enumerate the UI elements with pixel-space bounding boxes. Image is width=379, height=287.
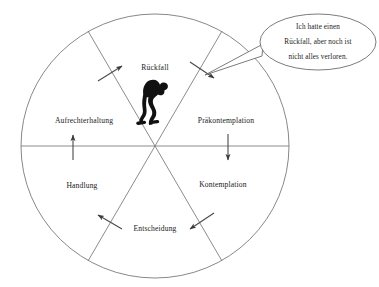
arrow-lower-left [98, 215, 122, 229]
speech-bubble-line-1: Ich hatte einen [296, 23, 340, 31]
speech-bubble-line-2: Rückfall, aber noch ist [284, 38, 351, 46]
speech-bubble-line-3: nicht alles verloren. [289, 53, 348, 61]
sector-label-entscheidung: Entscheidung [133, 224, 176, 233]
sector-label-praekontemplation: Präkontemplation [198, 116, 254, 125]
stages-of-change-wheel: Rückfall Präkontemplation Kontemplation … [0, 0, 379, 287]
sector-label-aufrechterhaltung: Aufrechterhaltung [55, 116, 113, 125]
hunched-person-icon [136, 80, 168, 125]
diagram-canvas: Rückfall Präkontemplation Kontemplation … [0, 0, 379, 287]
sector-label-kontemplation: Kontemplation [199, 180, 247, 189]
speech-bubble-tail [205, 44, 263, 75]
arrow-upper-right [190, 62, 214, 78]
sector-label-handlung: Handlung [66, 181, 97, 190]
sector-label-rueckfall: Rückfall [141, 63, 168, 72]
